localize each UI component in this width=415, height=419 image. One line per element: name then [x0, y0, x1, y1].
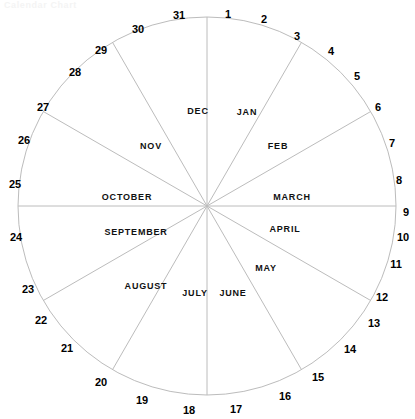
- day-number-label: 5: [354, 71, 360, 82]
- day-number-label: 31: [173, 10, 185, 21]
- day-number-label: 2: [261, 14, 267, 25]
- day-number-label: 19: [136, 395, 148, 406]
- day-number-label: 1: [225, 9, 231, 20]
- day-number-label: 14: [344, 344, 356, 355]
- month-label-october: OCTOBER: [102, 190, 152, 203]
- day-number-label: 9: [403, 207, 409, 218]
- month-label-nov: NOV: [140, 139, 162, 152]
- day-number-label: 7: [389, 138, 395, 149]
- day-number-label: 24: [10, 232, 22, 243]
- day-number-label: 20: [95, 377, 107, 388]
- month-label-jan: JAN: [237, 105, 257, 118]
- day-number-label: 29: [95, 45, 107, 56]
- month-label-feb: FEB: [268, 139, 288, 152]
- day-number-label: 30: [132, 24, 144, 35]
- day-number-label: 13: [368, 318, 380, 329]
- day-number-label: 3: [294, 31, 300, 42]
- day-number-label: 21: [61, 343, 73, 354]
- day-number-label: 28: [69, 67, 81, 78]
- day-number-label: 11: [390, 259, 402, 270]
- day-number-label: 12: [376, 292, 388, 303]
- month-label-july: JULY: [182, 286, 207, 299]
- calendar-wheel-figure: Calendar Chart JANFEBMARCHAPRILMAYJUNEJU…: [0, 0, 415, 419]
- day-number-label: 15: [312, 372, 324, 383]
- day-number-label: 23: [22, 284, 34, 295]
- day-number-label: 26: [18, 135, 30, 146]
- day-number-label: 4: [328, 46, 334, 57]
- day-number-label: 27: [37, 102, 49, 113]
- month-label-april: APRIL: [269, 222, 300, 235]
- day-number-label: 25: [9, 179, 21, 190]
- day-number-label: 10: [397, 232, 409, 243]
- day-number-label: 6: [375, 102, 381, 113]
- day-number-label: 17: [230, 404, 242, 415]
- day-number-label: 22: [35, 315, 47, 326]
- day-number-label: 16: [279, 391, 291, 402]
- month-label-may: MAY: [255, 261, 277, 274]
- sector-divider-line: [207, 42, 302, 206]
- month-label-june: JUNE: [219, 286, 246, 299]
- month-label-august: AUGUST: [125, 279, 168, 292]
- month-label-dec: DEC: [187, 104, 208, 117]
- calendar-wheel-graphic: [0, 0, 415, 419]
- day-number-label: 18: [183, 405, 195, 416]
- sector-divider-line: [113, 42, 208, 206]
- month-label-september: SEPTEMBER: [104, 225, 167, 238]
- month-label-march: MARCH: [273, 190, 311, 203]
- day-number-label: 8: [396, 175, 402, 186]
